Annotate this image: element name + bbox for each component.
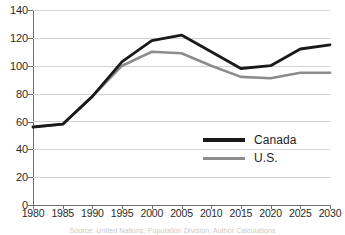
y-tick-label-80: 80: [2, 89, 28, 100]
y-tick-label-120: 120: [2, 33, 28, 44]
legend-label-us: U.S.: [254, 152, 278, 164]
source-note: Source: United Nations, Population Divis…: [0, 227, 345, 235]
x-axis-labels: 1980 1985 1990 1995 2000 2005 2010 2015 …: [33, 208, 330, 224]
legend-label-canada: Canada: [254, 134, 297, 146]
y-tick-label-40: 40: [2, 144, 28, 155]
legend-item-us: U.S.: [203, 149, 313, 167]
legend-swatch-us: [203, 157, 245, 160]
series-line-us: [33, 52, 330, 127]
y-tick-label-60: 60: [2, 117, 28, 128]
y-axis-labels: 140 120 100 80 60 40 20 0: [0, 0, 28, 235]
legend-swatch-canada: [203, 138, 245, 141]
x-tick-label-2030: 2030: [313, 208, 345, 219]
y-tick-label-20: 20: [2, 172, 28, 183]
y-tick-label-140: 140: [2, 5, 28, 16]
y-tick-label-100: 100: [2, 61, 28, 72]
chart-legend: Canada U.S.: [203, 131, 313, 167]
line-chart: 140 120 100 80 60 40 20 0: [0, 0, 345, 235]
series-line-canada: [33, 35, 330, 127]
legend-item-canada: Canada: [203, 131, 313, 149]
series-container: [33, 10, 330, 205]
plot-area: [33, 10, 330, 205]
